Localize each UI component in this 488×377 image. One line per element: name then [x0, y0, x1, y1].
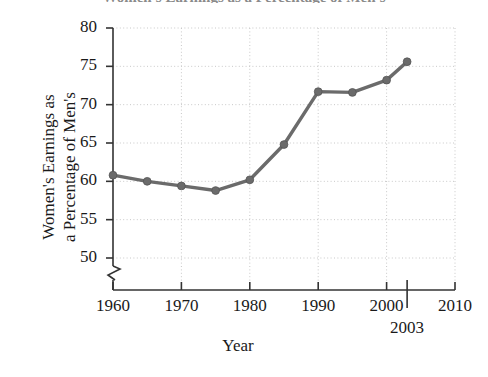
y-tick-label-75: 75: [57, 55, 97, 75]
data-point-1995: [349, 89, 357, 97]
data-point-2003: [403, 58, 411, 66]
data-point-1970: [178, 182, 186, 190]
y-tick-label-60: 60: [57, 170, 97, 190]
y-axis-break-symbol: [108, 266, 120, 280]
axis-lines: [113, 28, 455, 290]
x-tick-label-2000: 2000: [357, 296, 417, 316]
data-line: [113, 62, 407, 191]
y-tick-label-50: 50: [57, 247, 97, 267]
x-tick-label-1990: 1990: [288, 296, 348, 316]
data-point-1965: [143, 177, 151, 185]
y-tick-label-80: 80: [57, 17, 97, 37]
data-point-2000: [383, 76, 391, 84]
data-point-1960: [109, 171, 117, 179]
y-tick-label-65: 65: [57, 132, 97, 152]
x-tick-label-1960: 1960: [83, 296, 143, 316]
chart-figure: Women's Earnings as a Percentage of Men'…: [0, 0, 488, 377]
data-markers: [109, 58, 411, 195]
y-tick-label-55: 55: [57, 209, 97, 229]
y-tick-marks: [106, 28, 113, 258]
x-axis-title: Year: [178, 336, 298, 356]
annotation-2003: 2003: [377, 318, 437, 338]
y-tick-label-70: 70: [57, 94, 97, 114]
x-tick-label-2010: 2010: [425, 296, 485, 316]
data-point-1985: [280, 141, 288, 149]
x-tick-label-1970: 1970: [151, 296, 211, 316]
data-point-1990: [314, 88, 322, 96]
data-point-1975: [212, 187, 220, 195]
x-tick-label-1980: 1980: [220, 296, 280, 316]
data-point-1980: [246, 176, 254, 184]
